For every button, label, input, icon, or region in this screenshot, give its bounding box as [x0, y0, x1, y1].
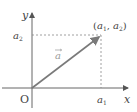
- point-label: (a1, a2): [93, 20, 127, 32]
- coordinate-diagram: y x O a2 a1 (a1, a2) a: [0, 0, 137, 112]
- y-axis-label: y: [21, 9, 29, 22]
- vector-label-text: a: [55, 50, 61, 61]
- vector-label: a: [55, 49, 62, 61]
- vector-a: [32, 37, 99, 88]
- origin-label: O: [20, 93, 29, 106]
- x-axis-label: x: [124, 93, 131, 106]
- y-tick-label: a2: [13, 30, 23, 42]
- x-tick-label: a1: [97, 94, 107, 106]
